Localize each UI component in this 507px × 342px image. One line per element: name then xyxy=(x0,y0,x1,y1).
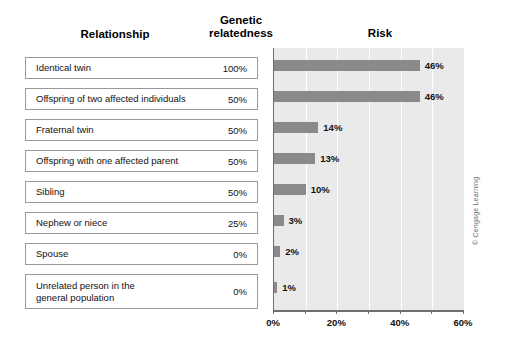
row-relationship-label: Identical twin xyxy=(26,62,223,74)
chart-bar-value-label: 10% xyxy=(311,184,330,195)
copyright-credit: © Cengage Learning xyxy=(472,177,479,245)
row-genetic-relatedness-value: 0% xyxy=(233,249,257,260)
table-row: Identical twin100% xyxy=(25,57,258,79)
chart-bar xyxy=(274,122,318,133)
row-relationship-label: Offspring of two affected individuals xyxy=(26,93,228,105)
chart-plot-area: 46%46%14%13%10%3%2%1% xyxy=(274,48,464,310)
row-relationship-label: Unrelated person in the general populati… xyxy=(26,280,233,303)
risk-bar-chart: 46%46%14%13%10%3%2%1% xyxy=(273,48,464,310)
x-axis-tick-label: 0% xyxy=(253,317,293,328)
row-genetic-relatedness-value: 25% xyxy=(228,218,257,229)
x-axis-tick-label: 20% xyxy=(316,317,356,328)
chart-bar-value-label: 46% xyxy=(425,60,444,71)
chart-bar xyxy=(274,215,284,226)
chart-bar xyxy=(274,282,277,293)
chart-bar-value-label: 2% xyxy=(285,246,299,257)
table-row: Fraternal twin50% xyxy=(25,119,258,141)
row-relationship-label: Spouse xyxy=(26,248,233,260)
x-axis-tick-label: 40% xyxy=(380,317,420,328)
chart-bar xyxy=(274,184,306,195)
chart-gridline xyxy=(401,48,402,310)
x-axis-tick-label: 60% xyxy=(443,317,483,328)
row-genetic-relatedness-value: 50% xyxy=(228,125,257,136)
x-axis-tick xyxy=(463,310,464,314)
row-genetic-relatedness-value: 0% xyxy=(233,286,257,297)
chart-bar-value-label: 13% xyxy=(320,153,339,164)
x-axis-tick xyxy=(273,310,274,314)
chart-bar xyxy=(274,91,420,102)
row-relationship-label: Fraternal twin xyxy=(26,124,228,136)
chart-gridline xyxy=(464,48,465,310)
chart-bar-value-label: 46% xyxy=(425,91,444,102)
column-header-genetic-relatedness-line1: Genetic xyxy=(195,14,287,27)
chart-bar-value-label: 3% xyxy=(289,215,303,226)
chart-bar xyxy=(274,153,315,164)
chart-bar-value-label: 14% xyxy=(323,122,342,133)
table-row: Offspring with one affected parent50% xyxy=(25,150,258,172)
x-axis-tick xyxy=(305,310,306,314)
x-axis-tick xyxy=(336,310,337,314)
table-row: Unrelated person in the general populati… xyxy=(25,274,258,309)
row-genetic-relatedness-value: 50% xyxy=(228,156,257,167)
genetic-risk-figure: Relationship Genetic relatedness Risk Id… xyxy=(0,0,507,342)
row-relationship-label: Nephew or niece xyxy=(26,217,228,229)
table-row: Sibling50% xyxy=(25,181,258,203)
table-row: Offspring of two affected individuals50% xyxy=(25,88,258,110)
chart-bar xyxy=(274,246,280,257)
column-header-genetic-relatedness: Genetic relatedness xyxy=(195,14,287,40)
column-header-relationship: Relationship xyxy=(30,28,200,41)
x-axis-tick xyxy=(431,310,432,314)
chart-gridline xyxy=(432,48,433,310)
row-genetic-relatedness-value: 100% xyxy=(223,63,257,74)
chart-title-risk: Risk xyxy=(330,27,430,40)
column-header-genetic-relatedness-line2: relatedness xyxy=(195,27,287,40)
row-genetic-relatedness-value: 50% xyxy=(228,187,257,198)
table-row: Spouse0% xyxy=(25,243,258,265)
row-genetic-relatedness-value: 50% xyxy=(228,94,257,105)
row-relationship-label: Sibling xyxy=(26,186,228,198)
x-axis-tick xyxy=(368,310,369,314)
table-row: Nephew or niece25% xyxy=(25,212,258,234)
chart-bar-value-label: 1% xyxy=(282,282,296,293)
chart-gridline xyxy=(337,48,338,310)
x-axis-tick xyxy=(400,310,401,314)
row-relationship-label: Offspring with one affected parent xyxy=(26,155,228,167)
chart-bar xyxy=(274,60,420,71)
chart-gridline xyxy=(369,48,370,310)
chart-gridline xyxy=(306,48,307,310)
